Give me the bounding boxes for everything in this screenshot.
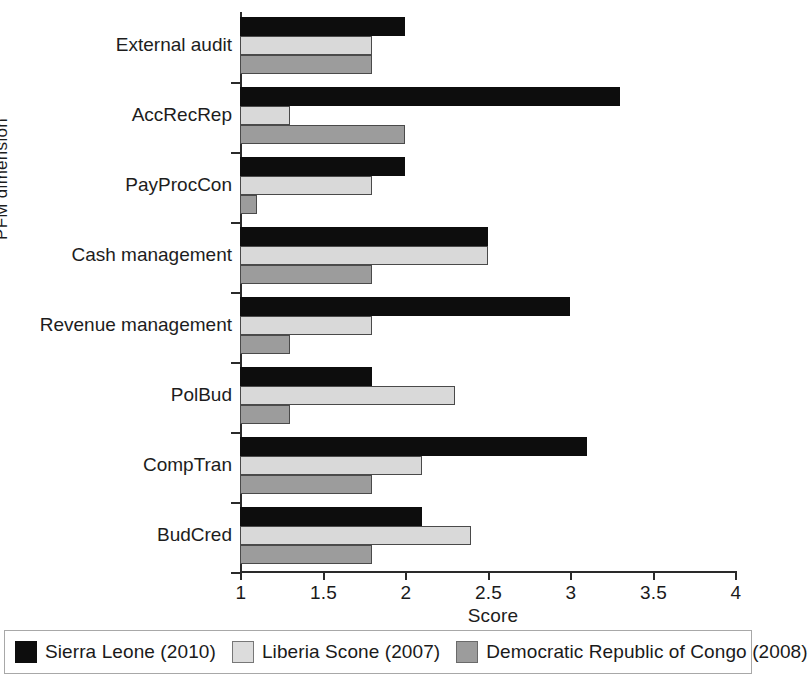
x-axis-tick-label: 1 <box>236 582 247 604</box>
legend-swatch-icon <box>456 641 478 663</box>
bar <box>240 55 372 74</box>
y-axis-title-text: PFM dimension <box>0 118 11 240</box>
legend-entry[interactable]: Democratic Republic of Congo (2008) <box>456 641 807 663</box>
y-axis-tick <box>231 432 240 434</box>
bar <box>240 125 405 144</box>
x-axis-tick-label: 2.5 <box>475 582 502 604</box>
bar <box>240 405 290 424</box>
x-axis-tick-label: 2 <box>401 582 412 604</box>
x-axis-tick-label: 3 <box>566 582 577 604</box>
bar <box>240 227 488 246</box>
category-label: PayProcCon <box>0 174 246 196</box>
x-axis-tick-label: 3.5 <box>640 582 667 604</box>
y-axis-tick <box>231 152 240 154</box>
y-axis-title: PFM dimension <box>0 118 12 240</box>
category-label: Cash management <box>0 244 246 266</box>
x-axis-tick-label: 1.5 <box>310 582 337 604</box>
x-axis-tick <box>488 571 490 580</box>
bar <box>240 335 290 354</box>
y-axis-tick <box>231 502 240 504</box>
x-axis-tick <box>240 571 242 580</box>
x-axis-tick <box>653 571 655 580</box>
bar <box>240 246 488 265</box>
category-label: AccRecRep <box>0 104 246 126</box>
bar <box>240 157 405 176</box>
bar-group <box>240 152 735 222</box>
bar <box>240 386 455 405</box>
bar-group <box>240 502 735 572</box>
chart-legend: Sierra Leone (2010)Liberia Scone (2007)D… <box>4 630 752 674</box>
category-label: BudCred <box>0 524 246 546</box>
legend-entry[interactable]: Liberia Scone (2007) <box>232 641 440 663</box>
bar <box>240 87 620 106</box>
x-axis-tick-label: 4 <box>731 582 742 604</box>
bar-group <box>240 292 735 362</box>
legend-label: Sierra Leone (2010) <box>45 641 216 663</box>
bar <box>240 456 422 475</box>
y-axis-tick <box>231 362 240 364</box>
y-axis-tick <box>231 572 240 574</box>
plot-area <box>240 12 735 572</box>
bar <box>240 367 372 386</box>
category-label: External audit <box>0 34 246 56</box>
bar <box>240 475 372 494</box>
bar <box>240 265 372 284</box>
bar-group <box>240 432 735 502</box>
category-label: CompTran <box>0 454 246 476</box>
y-axis-tick <box>231 82 240 84</box>
bar-group <box>240 362 735 432</box>
bar <box>240 36 372 55</box>
bar <box>240 17 405 36</box>
x-axis-tick <box>570 571 572 580</box>
bar <box>240 316 372 335</box>
bar <box>240 545 372 564</box>
category-label: Revenue management <box>0 314 246 336</box>
legend-label: Democratic Republic of Congo (2008) <box>486 641 807 663</box>
y-axis-tick <box>231 222 240 224</box>
x-axis-title: Score <box>0 605 758 627</box>
x-axis-title-text: Score <box>468 605 519 627</box>
bar <box>240 195 257 214</box>
bar <box>240 526 471 545</box>
bar <box>240 297 570 316</box>
bar-group <box>240 222 735 292</box>
x-axis-tick <box>323 571 325 580</box>
bar-group <box>240 82 735 152</box>
legend-swatch-icon <box>232 641 254 663</box>
x-axis-tick <box>405 571 407 580</box>
bar <box>240 507 422 526</box>
x-axis-tick <box>735 571 737 580</box>
legend-entry[interactable]: Sierra Leone (2010) <box>15 641 216 663</box>
legend-label: Liberia Scone (2007) <box>262 641 440 663</box>
bar <box>240 437 587 456</box>
y-axis-tick <box>231 292 240 294</box>
bar <box>240 176 372 195</box>
category-label: PolBud <box>0 384 246 406</box>
bar-group <box>240 12 735 82</box>
bar <box>240 106 290 125</box>
legend-swatch-icon <box>15 641 37 663</box>
